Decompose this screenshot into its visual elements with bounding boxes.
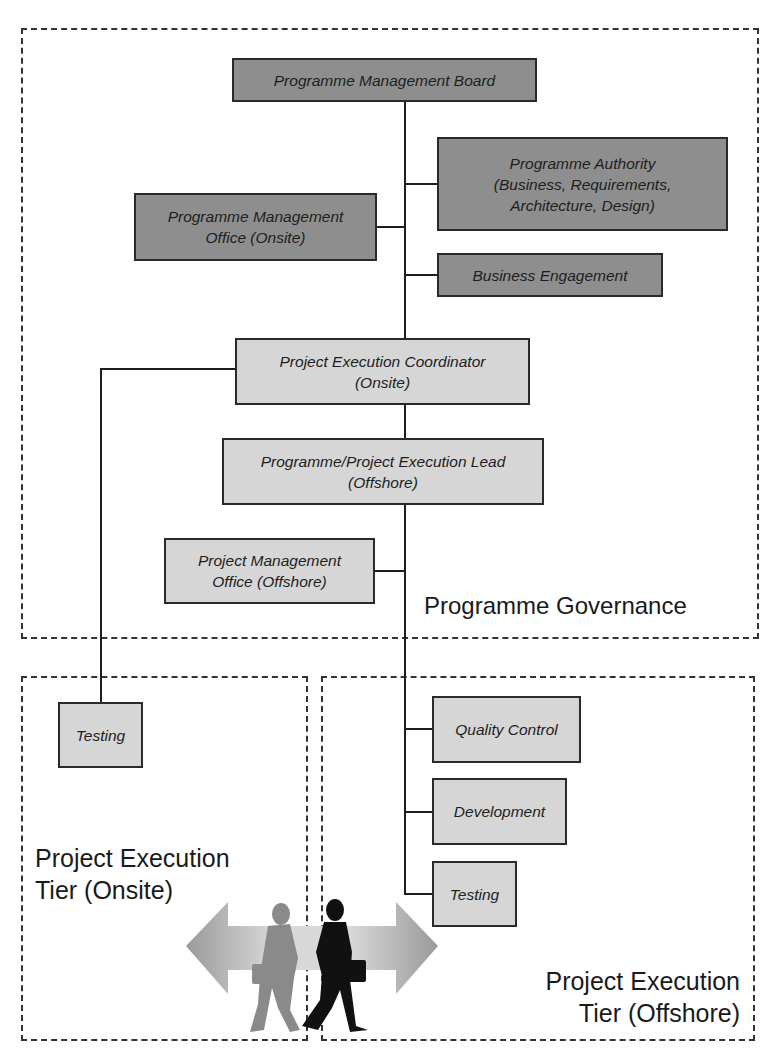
node-project-execution-coordinator: Project Execution Coordinator (Onsite) xyxy=(235,338,530,405)
node-label: Quality Control xyxy=(455,719,558,740)
node-project-management-office-offshore: Project Management Office (Offshore) xyxy=(164,538,375,604)
governance-frame xyxy=(21,28,759,639)
node-label: Project Execution Coordinator (Onsite) xyxy=(280,351,486,393)
node-label: Programme/Project Execution Lead (Offsho… xyxy=(261,451,506,493)
node-label: Testing xyxy=(450,884,499,905)
node-label: Business Engagement xyxy=(472,265,627,286)
node-programme-authority: Programme Authority (Business, Requireme… xyxy=(437,137,728,231)
offshore-branch-line xyxy=(404,505,406,895)
node-development: Development xyxy=(432,778,567,845)
walking-businessmen-double-arrow-icon xyxy=(180,880,445,1040)
node-label: Programme Management Board xyxy=(274,70,495,91)
node-label: Project Management Office (Offshore) xyxy=(198,550,341,592)
onsite-branch-line xyxy=(100,368,102,702)
connector-coordinator-to-lead xyxy=(404,405,406,438)
node-business-engagement: Business Engagement xyxy=(437,253,663,297)
governance-label: Programme Governance xyxy=(424,590,687,622)
connector-programme-authority xyxy=(404,183,437,185)
connector-development xyxy=(404,811,432,813)
double-arrow-shape xyxy=(186,902,438,994)
node-label: Development xyxy=(454,801,545,822)
businessman-gray-silhouette xyxy=(250,903,300,1032)
node-execution-lead-offshore: Programme/Project Execution Lead (Offsho… xyxy=(222,438,544,505)
node-label: Programme Management Office (Onsite) xyxy=(168,206,344,248)
connector-coordinator-to-onsite xyxy=(100,368,235,370)
connector-pmo-offshore xyxy=(375,570,405,572)
connector-business-engagement xyxy=(404,274,437,276)
node-programme-management-board: Programme Management Board xyxy=(232,58,537,102)
connector-pmo-onsite xyxy=(377,226,405,228)
node-label: Programme Authority (Business, Requireme… xyxy=(494,153,671,216)
connector-quality-control xyxy=(404,728,432,730)
main-trunk-line xyxy=(404,102,406,338)
node-programme-management-office-onsite: Programme Management Office (Onsite) xyxy=(134,193,377,261)
node-quality-control: Quality Control xyxy=(432,696,581,763)
node-label: Testing xyxy=(76,725,125,746)
offshore-tier-label: Project Execution Tier (Offshore) xyxy=(545,965,740,1029)
node-testing-onsite: Testing xyxy=(58,702,143,768)
